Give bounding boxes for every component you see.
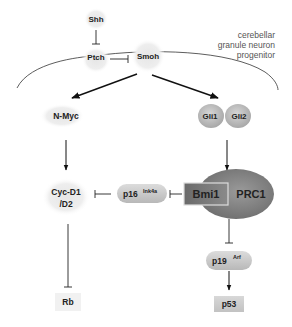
edge-smoh-to-gli	[152, 75, 218, 98]
node-p53: p53	[214, 296, 244, 312]
node-smoh-label: Smoh	[137, 52, 159, 61]
edge-smoh-to-nmyc	[72, 74, 137, 98]
node-p53-label: p53	[222, 299, 237, 309]
edge-p16-inhibits-cyc	[95, 190, 111, 198]
node-gli1-label: Gli1	[202, 112, 218, 121]
node-cyc-label-line2: /D2	[59, 199, 73, 209]
node-ptch-label: Ptch	[87, 53, 104, 62]
edge-cyc-inhibits-rb	[64, 224, 72, 287]
node-smoh: Smoh	[131, 39, 165, 73]
edge-bmi1-inhibits-p19	[225, 219, 233, 243]
node-shh-label: Shh	[88, 15, 103, 24]
node-p19-label: p19	[212, 256, 227, 266]
node-cyc-label-line1: Cyc-D1	[51, 187, 81, 197]
node-nmyc-label: N-Myc	[53, 111, 79, 121]
node-shh: Shh	[84, 8, 108, 30]
edge-bmi1-inhibits-p16	[170, 190, 182, 198]
node-ptch: Ptch	[82, 47, 110, 73]
node-gli: Gli1 Gli2	[198, 104, 251, 128]
node-p16-label: p16	[123, 189, 138, 199]
node-p16-superscript: Ink4a	[143, 188, 158, 194]
node-bmi1-label: Bmi1	[193, 188, 220, 200]
node-prc1-label: PRC1	[236, 188, 265, 200]
node-p19-arf: p19 Arf	[206, 251, 252, 270]
node-p16-ink4a: p16 Ink4a	[117, 184, 167, 203]
node-p19-superscript: Arf	[233, 254, 241, 260]
cell-label-line1: cerebellar	[238, 30, 275, 40]
edge-ptch-inhibits-smoh	[110, 55, 128, 63]
node-cyc-d1-d2: Cyc-D1 /D2	[42, 178, 90, 216]
pathway-diagram: cerebellar granule neuron progenitor Shh…	[0, 0, 292, 327]
cell-label-line3: progenitor	[237, 50, 275, 60]
node-nmyc: N-Myc	[40, 104, 84, 128]
node-bmi1-prc1: Bmi1 PRC1	[184, 169, 274, 219]
node-rb: Rb	[55, 293, 81, 311]
edge-shh-inhibits-ptch	[92, 30, 100, 44]
node-rb-label: Rb	[62, 297, 73, 307]
node-gli2-label: Gli2	[231, 112, 247, 121]
cell-label-line2: granule neuron	[218, 40, 275, 50]
